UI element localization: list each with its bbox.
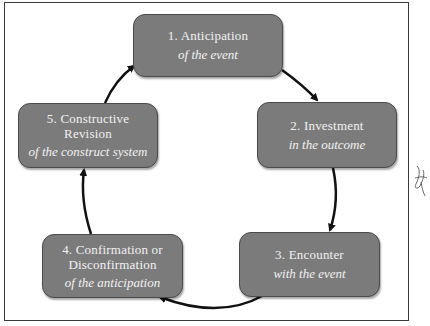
node-anticipation: 1. Anticipation of the event (133, 14, 283, 77)
node-title-line1: 5. Constructive (47, 111, 129, 126)
node-constructive-revision: 5. Constructive Revision of the construc… (18, 103, 158, 168)
node-encounter: 3. Encounter with the event (239, 232, 380, 297)
handwritten-signature-icon (413, 160, 429, 200)
node-title: 1. Anticipation (168, 28, 248, 43)
arrow-2-to-3 (330, 168, 336, 230)
arrow-4-to-5 (83, 170, 91, 234)
node-title-line2: Disconfirmation (68, 257, 156, 272)
node-title: 2. Investment (290, 118, 363, 133)
node-title-line1: 4. Confirmation or (62, 242, 163, 257)
arrow-5-to-1 (105, 66, 134, 103)
node-subtitle: of the construct system (29, 144, 148, 160)
arrow-1-to-2 (282, 70, 317, 100)
node-investment: 2. Investment in the outcome (257, 102, 397, 168)
node-title-line2: Revision (64, 126, 112, 141)
node-subtitle: of the event (178, 47, 238, 63)
node-confirmation: 4. Confirmation or Disconfirmation of th… (42, 234, 183, 298)
node-title: 3. Encounter (275, 247, 344, 262)
node-subtitle: in the outcome (289, 137, 366, 153)
node-subtitle: of the anticipation (65, 275, 160, 291)
node-subtitle: with the event (273, 266, 345, 282)
